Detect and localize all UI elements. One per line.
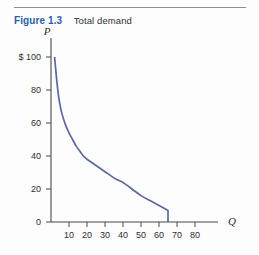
total-demand-curve <box>55 57 168 222</box>
y-axis-ticks <box>46 57 51 222</box>
y-tick-label: 40 <box>31 151 41 161</box>
chart-plot-area: P Q 0 20 40 60 80 $ 100 <box>0 26 259 255</box>
x-tick-label: 80 <box>190 230 200 240</box>
x-tick-label: 30 <box>100 230 110 240</box>
header-divider <box>14 7 246 8</box>
y-tick-label: 20 <box>31 184 41 194</box>
figure-number-label: Figure 1.3 <box>14 15 62 26</box>
x-tick-label: 40 <box>118 230 128 240</box>
x-axis-tick-labels: 10 20 30 40 50 60 70 80 <box>64 230 200 240</box>
y-axis-label: P <box>43 26 51 37</box>
figure-container: Figure 1.3 Total demand P Q 0 20 4 <box>0 0 259 255</box>
x-tick-label: 70 <box>172 230 182 240</box>
y-tick-label: 80 <box>31 85 41 95</box>
x-axis-ticks <box>69 222 195 227</box>
y-tick-label: $ 100 <box>18 52 41 62</box>
figure-title: Total demand <box>74 15 132 26</box>
x-tick-label: 10 <box>64 230 74 240</box>
y-tick-label: 60 <box>31 118 41 128</box>
demand-curve-chart: P Q 0 20 40 60 80 $ 100 <box>0 26 259 255</box>
x-tick-label: 60 <box>154 230 164 240</box>
x-axis-label: Q <box>228 215 236 227</box>
x-tick-label: 20 <box>82 230 92 240</box>
y-tick-label: 0 <box>36 217 41 227</box>
x-tick-label: 50 <box>136 230 146 240</box>
figure-caption: Figure 1.3 Total demand <box>14 13 132 27</box>
y-axis-tick-labels: 0 20 40 60 80 $ 100 <box>18 52 41 227</box>
